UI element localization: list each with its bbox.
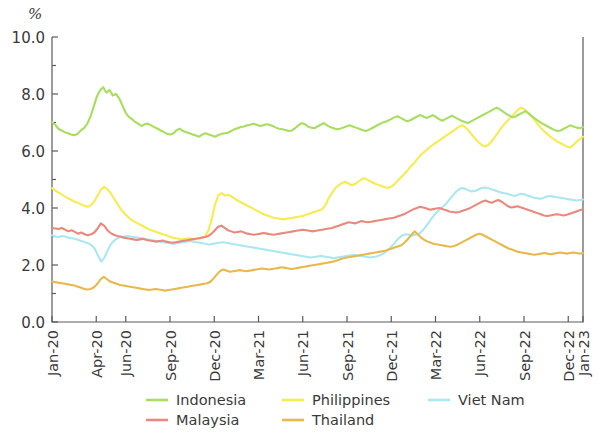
x-axis-tick-label: Jun-21 <box>295 330 311 377</box>
x-axis-tick-marks <box>52 316 583 322</box>
series-line-viet-nam <box>52 187 583 261</box>
legend-label-philippines[interactable]: Philippines <box>312 392 390 408</box>
y-axis-tick-label: 2.0 <box>21 257 45 275</box>
x-axis-tick-label: Sep-22 <box>517 330 533 381</box>
x-axis-tick-label: Sep-21 <box>340 330 356 381</box>
legend-label-malaysia[interactable]: Malaysia <box>176 412 239 428</box>
y-axis-tick-label: 8.0 <box>21 86 45 104</box>
chart-figure: % 0.02.04.06.08.010.0 Jan-20Apr-20Jun-20… <box>0 0 598 437</box>
legend-label-viet-nam[interactable]: Viet Nam <box>458 392 525 408</box>
x-axis-tick-label: Jan-23 <box>576 330 592 377</box>
legend-label-indonesia[interactable]: Indonesia <box>176 392 246 408</box>
x-axis-tick-label: Dec-21 <box>384 330 400 382</box>
x-axis-tick-label: Dec-22 <box>561 330 577 382</box>
series-line-thailand <box>52 231 583 290</box>
x-axis-tick-labels: Jan-20Apr-20Jun-20Sep-20Dec-20Mar-21Jun-… <box>45 330 592 382</box>
series-lines <box>52 87 583 290</box>
x-axis-tick-label: Jun-20 <box>118 330 134 377</box>
y-axis-unit-label: % <box>28 5 42 23</box>
y-axis-tick-label: 4.0 <box>21 200 45 218</box>
y-axis-tick-labels: 0.02.04.06.08.010.0 <box>12 29 45 332</box>
y-axis-tick-label: 6.0 <box>21 143 45 161</box>
y-axis-tick-label: 10.0 <box>12 29 45 47</box>
x-axis-tick-label: Mar-21 <box>251 330 267 380</box>
plot-frame <box>52 37 583 322</box>
y-axis-tick-marks <box>52 37 58 322</box>
x-axis-tick-label: Apr-20 <box>89 330 105 378</box>
x-axis-tick-label: Sep-20 <box>163 330 179 381</box>
series-line-indonesia <box>52 87 583 137</box>
legend-label-thailand[interactable]: Thailand <box>311 412 374 428</box>
chart-legend: IndonesiaPhilippinesViet NamMalaysiaThai… <box>146 392 525 428</box>
line-chart: % 0.02.04.06.08.010.0 Jan-20Apr-20Jun-20… <box>0 0 598 437</box>
x-axis-tick-label: Mar-22 <box>428 330 444 380</box>
y-axis-tick-label: 0.0 <box>21 314 45 332</box>
x-axis-tick-label: Dec-20 <box>207 330 223 382</box>
x-axis-tick-label: Jun-22 <box>472 330 488 377</box>
x-axis-tick-label: Jan-20 <box>45 330 61 377</box>
